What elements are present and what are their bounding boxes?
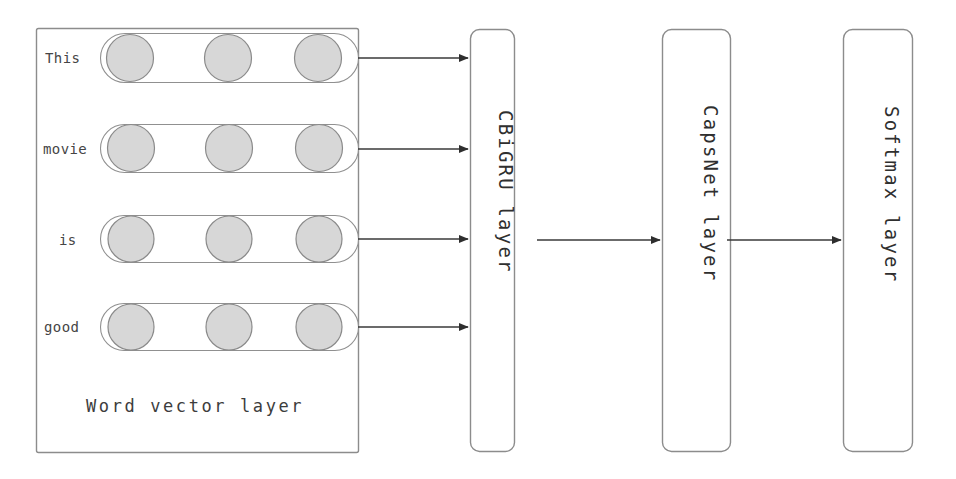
word-vector-layer-caption: Word vector layer <box>86 396 304 416</box>
word-row-movie <box>101 125 359 173</box>
vector-unit-circle <box>206 304 252 350</box>
vector-unit-circle <box>206 125 253 172</box>
word-label-is: is <box>59 232 77 248</box>
vector-unit-circle <box>296 216 342 262</box>
vector-unit-circle <box>108 125 155 172</box>
vector-unit-circle <box>108 304 154 350</box>
vector-unit-circle <box>205 35 252 82</box>
softmax-layer-label: Softmax layer <box>881 106 903 283</box>
word-label-this: This <box>45 50 80 66</box>
word-row-is <box>101 216 359 263</box>
diagram-canvas: This movie is good Word vector layer CBi… <box>0 0 956 479</box>
word-row-good <box>101 304 359 351</box>
vector-unit-circle <box>295 35 342 82</box>
word-label-good: good <box>44 319 79 335</box>
vector-unit-circle <box>206 216 252 262</box>
capsnet-layer-label: CapsNet layer <box>700 105 722 282</box>
architecture-diagram: This movie is good Word vector layer CBi… <box>0 0 956 479</box>
cbigru-layer-label: CBiGRU layer <box>495 110 517 274</box>
vector-unit-circle <box>108 216 154 262</box>
word-label-movie: movie <box>43 141 87 157</box>
vector-unit-circle <box>107 35 154 82</box>
vector-unit-circle <box>296 304 342 350</box>
word-row-this <box>101 34 359 83</box>
vector-unit-circle <box>296 125 343 172</box>
